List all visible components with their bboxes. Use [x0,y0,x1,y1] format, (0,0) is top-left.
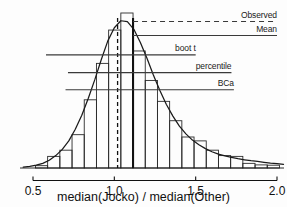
interval-label-percentile: percentile [0,62,232,71]
histogram-bar [157,101,169,168]
bootstrap-distribution-figure: Observed Mean boot t percentile BCa 0.51… [0,0,287,207]
histogram-bar [84,100,96,168]
histogram-bar [72,135,84,168]
vertical-markers [118,18,133,168]
x-axis [33,177,277,181]
x-axis-title: median(Jocko) / median(Other) [0,191,287,204]
interval-label-boot-t: boot t [0,44,196,53]
density-curve [23,21,283,167]
histogram-bars [35,13,279,168]
histogram-bar [60,150,72,168]
density-curve-path [23,21,283,167]
histogram-bar [255,165,267,168]
histogram-bar [182,137,194,168]
histogram-bar [48,156,60,168]
interval-label-mean: Mean [0,25,277,34]
histogram-bar [243,163,255,168]
histogram-bar [145,80,157,168]
interval-label-bca: BCa [0,79,234,88]
histogram-bar [121,13,133,168]
interval-label-observed: Observed [0,11,277,20]
